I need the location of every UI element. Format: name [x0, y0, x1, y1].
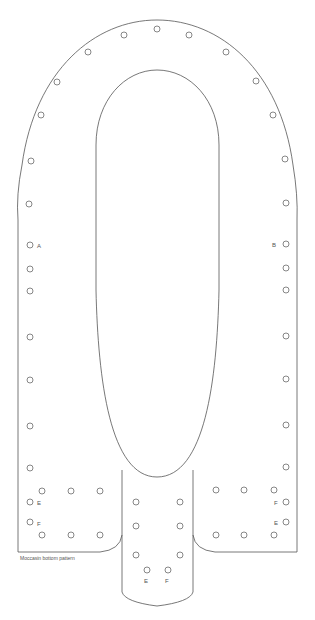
lacing-hole-left-panel	[68, 488, 74, 494]
lacing-hole-outer-arc	[253, 78, 259, 84]
lacing-hole-left-column	[27, 288, 33, 294]
lacing-hole-tongue	[133, 499, 139, 505]
lacing-hole-outer-arc	[223, 49, 229, 55]
lacing-hole-right-panel	[271, 487, 277, 493]
lacing-hole-right-column	[283, 333, 289, 339]
lacing-hole-outer-arc	[28, 158, 34, 164]
lacing-hole-outer-arc	[26, 201, 32, 207]
lacing-hole-right-panel	[241, 532, 247, 538]
hole-label-f: F	[165, 578, 169, 584]
lacing-hole-tongue	[177, 499, 183, 505]
lacing-hole-left-column	[27, 377, 33, 383]
outer-outline	[18, 20, 298, 552]
lacing-hole-outer-arc	[38, 112, 44, 118]
lacing-hole-right-column	[283, 265, 289, 271]
lacing-hole-left-column	[27, 242, 33, 248]
lacing-hole-left-panel	[39, 488, 45, 494]
lacing-hole-outer-arc	[186, 32, 192, 38]
lacing-hole-right-column	[283, 422, 289, 428]
pattern-caption: Moccasin bottom pattern	[20, 555, 75, 561]
hole-label-f: F	[37, 521, 41, 527]
hole-label-f: F	[274, 500, 278, 506]
lacing-hole-left-panel	[97, 532, 103, 538]
moccasin-pattern-diagram: ABEFFEEF	[0, 0, 315, 620]
lacing-hole-left-panel	[27, 499, 33, 505]
lacing-hole-right-panel	[271, 532, 277, 538]
lacing-hole-outer-arc	[154, 26, 160, 32]
lacing-hole-outer-arc	[121, 32, 127, 38]
lacing-hole-left-panel	[27, 519, 33, 525]
lacing-hole-right-column	[283, 464, 289, 470]
inner-outline	[96, 70, 219, 477]
lacing-holes	[26, 26, 289, 573]
hole-label-a: A	[37, 243, 41, 249]
lacing-hole-outer-arc	[282, 156, 288, 162]
lacing-hole-left-column	[27, 266, 33, 272]
lacing-hole-right-panel	[283, 499, 289, 505]
lacing-hole-left-column	[27, 465, 33, 471]
hole-label-e: E	[37, 500, 41, 506]
lacing-hole-outer-arc	[283, 200, 289, 206]
lacing-hole-tongue	[177, 552, 183, 558]
lacing-hole-tongue	[177, 523, 183, 529]
hole-label-e: E	[144, 578, 148, 584]
lacing-hole-right-column	[283, 241, 289, 247]
lacing-hole-tongue	[133, 523, 139, 529]
lacing-hole-right-panel	[213, 487, 219, 493]
lacing-hole-right-panel	[241, 487, 247, 493]
lacing-hole-right-panel	[213, 532, 219, 538]
lacing-hole-outer-arc	[54, 79, 60, 85]
lacing-hole-outer-arc	[85, 49, 91, 55]
lacing-hole-right-column	[283, 376, 289, 382]
lacing-hole-left-panel	[97, 488, 103, 494]
lacing-hole-tongue	[133, 552, 139, 558]
hole-label-b: B	[272, 242, 276, 248]
lacing-hole-left-panel	[68, 532, 74, 538]
lacing-hole-right-column	[283, 287, 289, 293]
lacing-hole-left-panel	[39, 532, 45, 538]
tongue-outline	[122, 470, 193, 606]
lacing-hole-left-column	[27, 334, 33, 340]
lacing-hole-right-panel	[283, 519, 289, 525]
lacing-hole-tongue	[165, 567, 171, 573]
lacing-hole-outer-arc	[270, 112, 276, 118]
lacing-hole-left-column	[27, 423, 33, 429]
hole-label-e: E	[274, 520, 278, 526]
lacing-hole-tongue	[144, 567, 150, 573]
